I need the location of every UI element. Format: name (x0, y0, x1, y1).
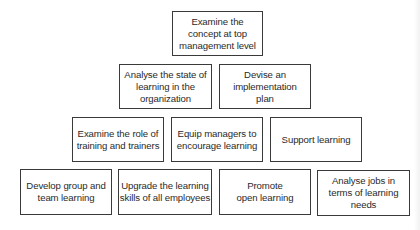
node-label: Analyse jobs in terms of learning needs (329, 175, 399, 211)
node-promote-open: Promote open learning (219, 169, 311, 215)
node-upgrade-skills: Upgrade the learning skills of all emplo… (118, 169, 212, 215)
node-examine-concept: Examine the concept at top management le… (172, 11, 263, 56)
node-analyse-state: Analyse the state of learning in the org… (119, 64, 212, 109)
node-equip-managers: Equip managers to encourage learning (171, 117, 263, 162)
node-label: Analyse the state of learning in the org… (124, 69, 206, 105)
node-label: Equip managers to encourage learning (177, 128, 257, 152)
node-label: Examine the role of training and trainer… (77, 128, 160, 152)
node-devise-plan: Devise an implementation plan (219, 64, 311, 109)
node-label: Promote open learning (237, 180, 294, 204)
node-support-learning: Support learning (270, 117, 362, 162)
node-develop-group: Develop group and team learning (20, 169, 112, 215)
node-label: Upgrade the learning skills of all emplo… (120, 180, 210, 204)
node-examine-role: Examine the role of training and trainer… (72, 117, 164, 162)
node-analyse-jobs: Analyse jobs in terms of learning needs (317, 170, 410, 216)
node-label: Support learning (282, 134, 351, 146)
page-edge-shadow (414, 0, 420, 230)
node-label: Examine the concept at top management le… (179, 16, 256, 52)
node-label: Develop group and team learning (26, 180, 105, 204)
node-label: Devise an implementation plan (233, 69, 297, 105)
